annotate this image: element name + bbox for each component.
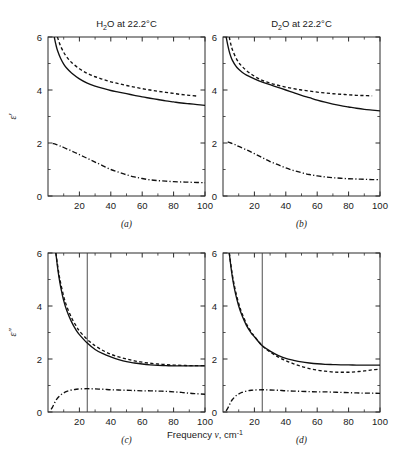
x-tick-label: 80 <box>343 416 354 427</box>
y-tick-label: 2 <box>212 138 217 149</box>
panel-b: 204060801000246(b)D2O at 22.2°C <box>212 18 388 230</box>
y-tick-label: 0 <box>37 407 42 418</box>
x-tick-label: 40 <box>281 200 292 211</box>
plot-frame <box>48 253 205 412</box>
x-tick-label: 40 <box>106 416 117 427</box>
panel-letter-d: (d) <box>296 435 307 446</box>
x-tick-label: 100 <box>372 416 388 427</box>
panel-title: D2O at 22.2°C <box>271 18 332 31</box>
y-tick-label: 6 <box>212 32 217 43</box>
panel-d: 204060801000246(d) <box>212 248 388 446</box>
panel-letter-c: (c) <box>121 435 132 446</box>
curve-dashdot <box>53 144 205 183</box>
curve-dashed <box>57 37 197 96</box>
figure-container: 204060801000246(a)H2O at 22.2°C204060801… <box>0 0 407 473</box>
curves-group <box>226 253 380 411</box>
y-tick-label: 4 <box>212 301 217 312</box>
y-axis-label-epsilon-prime: ε′ <box>7 113 18 120</box>
panel-letter-b: (b) <box>296 219 307 230</box>
curve-dashed <box>229 37 372 96</box>
curve-solid <box>229 253 380 365</box>
y-tick-label: 4 <box>37 301 42 312</box>
x-tick-label: 60 <box>312 416 323 427</box>
panel-c: 204060801000246(c) <box>37 248 213 446</box>
curve-dashed <box>56 253 205 366</box>
curves-group <box>226 37 380 180</box>
x-tick-label: 80 <box>168 416 179 427</box>
x-tick-label: 60 <box>137 416 148 427</box>
curves-group <box>53 37 205 183</box>
x-tick-label: 100 <box>372 200 388 211</box>
y-tick-label: 4 <box>212 85 217 96</box>
y-tick-label: 6 <box>212 248 217 259</box>
x-tick-label: 20 <box>74 200 85 211</box>
x-axis-title: Frequency ν, cm-1 <box>167 429 243 440</box>
x-tick-label: 60 <box>312 200 323 211</box>
x-tick-label: 40 <box>106 200 117 211</box>
curve-solid <box>226 37 380 111</box>
curve-dashdot <box>228 142 380 180</box>
y-tick-label: 6 <box>37 248 42 259</box>
x-tick-label: 20 <box>249 200 260 211</box>
y-tick-label: 2 <box>212 354 217 365</box>
y-tick-label: 4 <box>37 85 42 96</box>
y-tick-label: 2 <box>37 354 42 365</box>
y-tick-label: 6 <box>37 32 42 43</box>
x-tick-label: 60 <box>137 200 148 211</box>
x-tick-label: 80 <box>168 200 179 211</box>
x-tick-label: 100 <box>197 416 213 427</box>
x-tick-label: 80 <box>343 200 354 211</box>
curve-dashdot <box>51 389 205 410</box>
plot-frame <box>223 37 380 196</box>
y-axis-label-epsilon-double-prime: ε″ <box>7 328 18 337</box>
curve-solid <box>56 253 205 366</box>
y-tick-label: 0 <box>37 191 42 202</box>
plot-frame <box>223 253 380 412</box>
x-tick-label: 40 <box>281 416 292 427</box>
x-tick-label: 20 <box>249 416 260 427</box>
curve-dashdot <box>226 390 380 411</box>
y-tick-label: 0 <box>212 407 217 418</box>
panel-letter-a: (a) <box>121 219 132 230</box>
y-tick-label: 0 <box>212 191 217 202</box>
x-tick-label: 100 <box>197 200 213 211</box>
panel-a: 204060801000246(a)H2O at 22.2°C <box>37 18 213 230</box>
panel-title: H2O at 22.2°C <box>96 18 157 31</box>
y-tick-label: 2 <box>37 138 42 149</box>
figure-svg: 204060801000246(a)H2O at 22.2°C204060801… <box>0 0 407 473</box>
curves-group <box>51 253 205 409</box>
plot-frame <box>48 37 205 196</box>
curve-dashed <box>229 253 380 372</box>
x-tick-label: 20 <box>74 416 85 427</box>
